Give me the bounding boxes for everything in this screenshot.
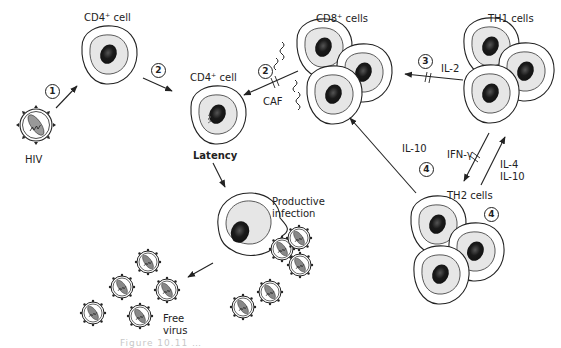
il2-label: IL-2 <box>441 63 459 75</box>
step-3-badge: 3 <box>418 54 433 69</box>
th2-cells-label: TH2 cells <box>447 190 493 202</box>
step-1-badge: 1 <box>45 84 60 99</box>
th1-cells-label: TH1 cells <box>488 13 534 25</box>
free-virus-label-2: virus <box>163 325 187 337</box>
latency-label: Latency <box>193 150 237 162</box>
figure-caption: Figure 10.11 … <box>120 338 202 348</box>
productive-infection-label-1: Productive <box>272 196 325 208</box>
cd4-cell-top <box>82 26 137 84</box>
cd4-latent-cell-label: CD4⁺ cell <box>190 72 237 84</box>
productive-infection-label-2: infection <box>272 208 315 220</box>
arrow-latent-to-productive <box>213 163 225 187</box>
step-4-badge: 4 <box>419 162 434 177</box>
cd8-cell-cluster <box>297 19 392 124</box>
step-4-th2-badge: 4 <box>484 207 499 222</box>
hiv-latency-diagram <box>0 0 561 348</box>
il4-label: IL-4 <box>500 159 518 171</box>
cd8-cells-label: CD8⁺ cells <box>316 13 368 25</box>
free-virus-label-1: Free <box>163 313 184 325</box>
cd4-cell-top-label: CD4⁺ cell <box>84 12 131 24</box>
th1-cell-cluster <box>464 18 554 123</box>
arrow-cd4-to-latent <box>143 78 172 91</box>
il10-right-label: IL-10 <box>500 171 525 183</box>
cd4-latent-cell <box>191 86 246 144</box>
step-2-badge: 2 <box>151 63 166 78</box>
arrow-productive-to-free <box>188 263 213 277</box>
il10-left-label: IL-10 <box>402 143 427 155</box>
step-2-caf-badge: 2 <box>258 64 273 79</box>
arrow-th2-to-cd8-il10 <box>350 118 416 193</box>
hiv-particle-icon <box>16 105 56 145</box>
ifn-gamma-label: IFN-γ <box>447 149 473 161</box>
hiv-label: HIV <box>25 154 42 166</box>
caf-label: CAF <box>263 96 283 108</box>
